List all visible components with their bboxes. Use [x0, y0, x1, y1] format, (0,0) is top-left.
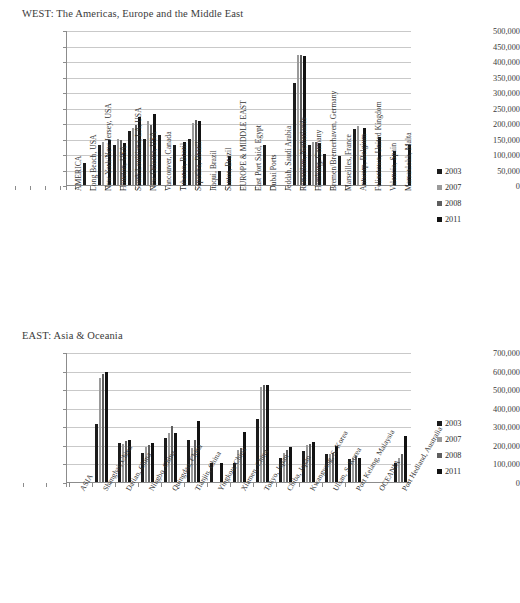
y-axis-tick-label: 500,000	[459, 386, 520, 395]
x-axis-tick-label: Marsaxlokk, Malta	[404, 132, 413, 191]
y-axis-tick-label: 200,000	[459, 120, 520, 129]
y-axis-tick-mark	[63, 427, 66, 428]
x-axis-tick-mark	[253, 483, 254, 487]
x-axis-tick-mark	[66, 186, 67, 190]
x-axis-tick-label: Antwerp, Belgium	[359, 134, 368, 191]
legend-item: 2007	[437, 183, 461, 192]
y-axis-tick-mark	[63, 140, 66, 141]
x-axis-tick-mark	[115, 483, 116, 487]
x-axis-tick-mark	[66, 483, 67, 487]
bar	[158, 135, 161, 185]
legend-label: 2007	[445, 435, 461, 444]
legend-item: 2003	[437, 419, 461, 428]
y-axis-tick-mark	[63, 353, 66, 354]
x-axis-tick-label: Hamburg, Germany	[314, 130, 323, 191]
y-axis-tick-mark	[63, 31, 66, 32]
y-axis-tick-label: 400,000	[459, 404, 520, 413]
bar	[143, 139, 146, 186]
y-axis-tick-mark	[63, 171, 66, 172]
y-axis-tick-label: 150,000	[459, 135, 520, 144]
x-axis-tick-label: East Port Said, Egypt	[254, 125, 263, 191]
bar-group	[90, 353, 113, 482]
x-axis-tick-mark	[92, 483, 93, 487]
x-axis-tick-label: Vancouver, Canada	[164, 131, 173, 191]
x-axis-tick-mark	[69, 483, 70, 487]
y-axis-tick-mark	[63, 124, 66, 125]
legend-swatch-icon	[437, 185, 442, 190]
bar	[353, 129, 356, 185]
y-axis-tick-mark	[63, 47, 66, 48]
x-axis-tick-mark	[207, 483, 208, 487]
legend-swatch-icon	[437, 201, 442, 206]
x-axis-tick-mark	[299, 483, 300, 487]
y-axis-tick-mark	[63, 155, 66, 156]
x-axis-tick-label: Rotterdam, Netherlands	[299, 117, 308, 191]
x-axis-tick-mark	[45, 186, 46, 190]
y-axis-tick-label: 300,000	[459, 423, 520, 432]
x-axis-tick-mark	[15, 186, 16, 190]
legend-swatch-icon	[437, 169, 442, 174]
x-axis-tick-label: AMERICA	[74, 156, 83, 191]
bar	[113, 145, 116, 185]
x-axis-tick-label: Marseilles, France	[344, 134, 353, 191]
bar	[218, 171, 221, 185]
bar	[188, 139, 191, 186]
legend-label: 2008	[445, 451, 461, 460]
x-axis-tick-mark	[184, 483, 185, 487]
y-axis-tick-label: 100,000	[459, 151, 520, 160]
east-plot: 700,000600,000500,000400,000300,000200,0…	[0, 347, 520, 603]
y-axis-tick-mark	[63, 409, 66, 410]
x-axis-tick-mark	[276, 483, 277, 487]
y-axis-tick-mark	[63, 62, 66, 63]
x-axis-tick-mark	[23, 483, 24, 487]
bar	[98, 145, 101, 185]
x-axis-tick-label: Itaqui, Brazil	[209, 150, 218, 191]
x-axis-tick-label: Valencia, Spain	[389, 143, 398, 191]
bar	[263, 145, 266, 185]
bar	[128, 131, 131, 185]
x-axis-tick-mark	[138, 483, 139, 487]
y-axis-tick-label: 50,000	[459, 166, 520, 175]
y-axis-tick-label: 450,000	[459, 42, 520, 51]
x-axis-tick-label: Long Beach, USA	[89, 134, 98, 191]
y-axis-tick-mark	[63, 464, 66, 465]
y-axis-tick-mark	[63, 109, 66, 110]
bar	[263, 385, 266, 482]
x-axis-tick-label: Bremen/Bremerhaven, Germany	[329, 91, 338, 191]
east-chart-block: EAST: Asia & Oceania 700,000600,000500,0…	[0, 330, 520, 603]
x-axis-tick-mark	[161, 483, 162, 487]
west-plot: 500,000450,000400,000350,000300,000250,0…	[0, 25, 520, 325]
x-axis-tick-label: New Orleans, USA	[149, 131, 158, 191]
y-axis-tick-mark	[63, 446, 66, 447]
x-axis-tick-mark	[322, 483, 323, 487]
bar	[105, 372, 108, 482]
bar-group	[67, 353, 90, 482]
bar	[83, 163, 86, 185]
y-axis-tick-mark	[63, 93, 66, 94]
east-chart-title: EAST: Asia & Oceania	[22, 330, 520, 341]
y-axis-tick-label: 300,000	[459, 89, 520, 98]
legend-item: 2011	[437, 215, 461, 224]
y-axis-tick-label: 100,000	[459, 460, 520, 469]
x-axis-tick-label: South Louisiana, LA, USA	[134, 107, 143, 191]
bar	[95, 424, 98, 482]
x-axis-tick-label: Dubai Ports	[269, 154, 278, 191]
legend: 2003200720082011	[437, 167, 461, 224]
x-axis-tick-mark	[30, 186, 31, 190]
legend-item: 2007	[437, 435, 461, 444]
bar	[323, 154, 326, 185]
x-axis-tick-label: New York/New Jersey, USA	[104, 103, 113, 191]
x-axis-tick-label: Felixstowe, United Kingdom	[374, 101, 383, 191]
legend-swatch-icon	[437, 217, 442, 222]
legend-label: 2003	[445, 419, 461, 428]
bar	[308, 145, 311, 185]
y-axis-tick-label: 250,000	[459, 104, 520, 113]
x-axis-tick-mark	[60, 186, 61, 190]
legend-swatch-icon	[437, 437, 442, 442]
legend: 2003200720082011	[437, 419, 461, 476]
legend-item: 2003	[437, 167, 461, 176]
y-axis-tick-label: 400,000	[459, 58, 520, 67]
y-axis-tick-label: 350,000	[459, 73, 520, 82]
bar	[293, 83, 296, 185]
legend-swatch-icon	[437, 469, 442, 474]
